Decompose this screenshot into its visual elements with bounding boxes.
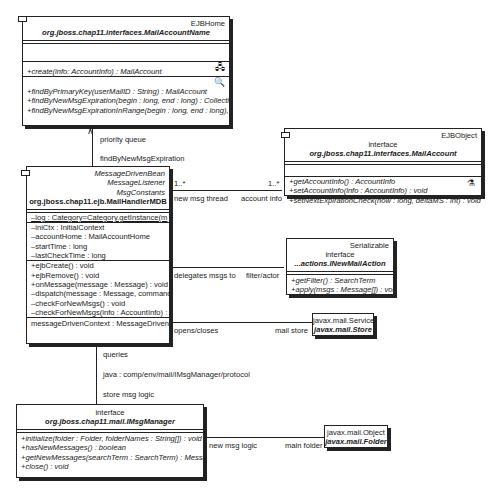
attribute-row: –lastCheckTime : long <box>27 251 169 260</box>
association-line-action <box>172 267 284 268</box>
attribute-row: –accountHome : MailAccountHome <box>27 232 169 241</box>
role-label: main folder <box>285 441 323 450</box>
methods-compartment: +initialize(folder : Folder, folderNames… <box>17 433 203 471</box>
method-row: +onMessage(message : Message) : void <box>27 280 169 289</box>
class-name: org.jboss.chap11.interfaces.MailAccountN… <box>23 28 229 38</box>
role-label: mail store <box>275 326 308 335</box>
association-line-manager <box>96 346 97 404</box>
role-label: delegates msgs to <box>174 271 236 280</box>
stereotype-label: Serializable <box>287 239 393 250</box>
method-row: +findByPrimaryKey(userMailID : String) :… <box>23 87 229 96</box>
role-label: new msg logic <box>209 441 257 450</box>
role-label: priority queue <box>100 135 146 144</box>
class-name: org.jboss.chap11.ejb.MailHandlerMDB <box>27 197 169 207</box>
component-icon <box>21 170 30 176</box>
method-row: +findByNewMsgExpiration(begin : long, en… <box>23 96 229 105</box>
stereotype-label: MessageListener <box>27 178 169 187</box>
method-row: –checkForNewMsgs(info : AccountInfo) : v <box>27 308 169 317</box>
finder-compartment: 🔍 +findByPrimaryKey(userMailID : String)… <box>23 77 229 115</box>
method-row: +setNextExpirationCheck(now : long, delt… <box>285 196 481 205</box>
stereotype-label: javax.mail.Object <box>325 426 387 437</box>
class-name: org.jboss.chap11.interfaces.MailAccount <box>285 149 481 159</box>
arrow-head-icon: ∧ <box>87 127 94 135</box>
class-mail-account-home[interactable]: EJBHome org.jboss.chap11.interfaces.Mail… <box>22 16 230 126</box>
method-row: +close() : void <box>17 462 203 471</box>
role-label: opens/closes <box>174 326 218 335</box>
component-icon <box>18 16 27 22</box>
method-row: –dispatch(message : Message, command : S… <box>27 289 169 298</box>
attribute-row: –startTime : long <box>27 242 169 251</box>
class-new-mail-action[interactable]: Serializable interface ...actions.INewMa… <box>286 238 394 295</box>
role-label: new msg thread <box>174 194 228 203</box>
method-row: +initialize(folder : Folder, folderNames… <box>17 434 203 443</box>
role-label: findByNewMsgExpiration <box>100 154 184 163</box>
method-row: +getFilter() : SearchTerm <box>287 276 393 285</box>
jndi-label: java : comp/env/mail/IMsgManager/protoco… <box>103 370 250 379</box>
role-label: account info <box>241 194 282 203</box>
component-icon <box>281 132 290 138</box>
method-row: +apply(msgs : Message[]) : void <box>287 285 393 294</box>
home-create-icon: 🖧 <box>215 63 225 72</box>
class-msg-manager[interactable]: interface org.jboss.chap11.mail.IMsgMana… <box>16 404 204 478</box>
business-method-icon: ⚗ <box>467 179 475 188</box>
interface-label: interface <box>17 405 203 417</box>
method-row: +ejbRemove() : void <box>27 271 169 280</box>
method-row: +getNewMessages(searchTerm : SearchTerm)… <box>17 453 203 462</box>
method-row: +findByNewMsgExpirationInRange(begin : l… <box>23 106 229 115</box>
method-row: +create(info: AccountInfo) : MailAccount <box>23 62 229 76</box>
multiplicity-label: 1..* <box>174 179 185 188</box>
method-row: +ejbCreate() : void <box>27 261 169 270</box>
role-label: store msg logic <box>103 390 154 399</box>
class-mail-store[interactable]: javax.mail.Service javax.mail.Store <box>312 313 374 336</box>
role-label: queries <box>103 350 128 359</box>
class-name: org.jboss.chap11.mail.IMsgManager <box>17 417 203 427</box>
methods-compartment: +getFilter() : SearchTerm +apply(msgs : … <box>287 275 393 295</box>
class-name: ...actions.INewMailAction <box>287 259 393 269</box>
association-line-store <box>172 322 312 323</box>
method-row: –checkForNewMsgs() : void <box>27 299 169 308</box>
stereotype-label: javax.mail.Service <box>313 314 373 325</box>
method-row: +setAccountInfo(info : AccountInfo) : vo… <box>285 186 481 195</box>
multiplicity-label: 1..* <box>268 179 279 188</box>
attributes-compartment <box>23 44 229 61</box>
class-mail-account[interactable]: EJBObject interface org.jboss.chap11.int… <box>284 128 482 196</box>
class-mail-handler-mdb[interactable]: MessageDrivenBean MessageListener MsgCon… <box>26 166 170 344</box>
class-name: javax.mail.Store <box>313 325 373 335</box>
interface-label: interface <box>285 140 481 149</box>
role-label: filter/actor <box>246 271 279 280</box>
stereotype-label: EJBObject <box>285 129 481 140</box>
context-row: messageDrivenContext : MessageDrivenC <box>27 318 169 328</box>
class-mail-folder[interactable]: javax.mail.Object javax.mail.Folder <box>324 425 388 448</box>
method-row: +getAccountInfo() : AccountInfo <box>285 177 481 186</box>
finder-magnifier-icon: 🔍 <box>214 78 225 87</box>
attributes-compartment <box>285 165 481 176</box>
interface-label: interface <box>287 250 393 259</box>
static-attribute-row: –log : Category=Category.getInstance(m <box>27 213 169 222</box>
association-line-account <box>172 190 282 191</box>
stereotype-label: MessageDrivenBean <box>27 167 169 178</box>
attribute-row: –iniCtx : InitialContext <box>27 223 169 232</box>
methods-compartment: ⚗ +getAccountInfo() : AccountInfo +setAc… <box>285 177 481 205</box>
class-name: javax.mail.Folder <box>325 437 387 447</box>
create-compartment: 🖧 +create(info: AccountInfo) : MailAccou… <box>23 62 229 76</box>
method-row: +hasNewMessages() : boolean <box>17 443 203 452</box>
stereotype-label: EJBHome <box>23 17 229 28</box>
association-line-folder <box>206 437 324 438</box>
stereotype-label: MsgConstants <box>27 188 169 197</box>
